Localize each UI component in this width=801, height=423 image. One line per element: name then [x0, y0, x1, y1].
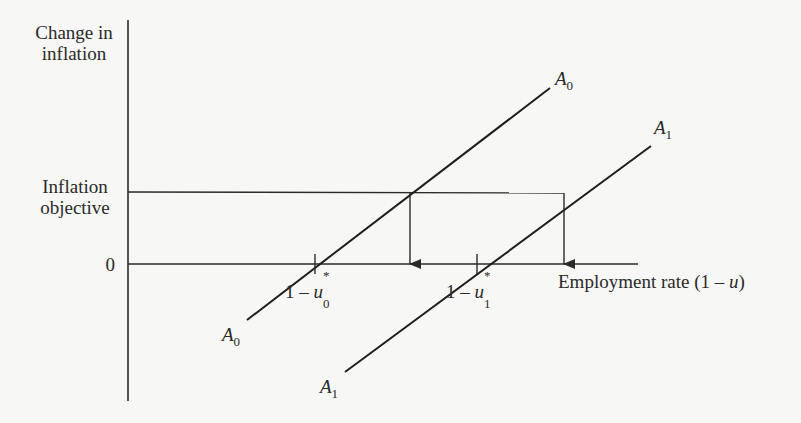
curve-a1-sub: 1: [666, 127, 673, 142]
curve-a0-letter: A: [555, 68, 567, 89]
zero-label: 0: [90, 254, 115, 275]
curve-a1-letter: A: [320, 376, 332, 397]
curve-a0-sub: 0: [567, 78, 574, 93]
curve-a0-letter: A: [222, 324, 234, 345]
x-axis-label-close: ): [738, 271, 744, 292]
curve-a1-letter: A: [654, 117, 666, 138]
y-axis-label-line2: inflation: [24, 43, 124, 64]
objective-label-line2: objective: [30, 197, 120, 218]
y-axis-label: Change in inflation: [24, 22, 124, 64]
curve-a1-sub: 1: [332, 386, 339, 401]
curve-a0-top-label: A0: [555, 68, 573, 89]
inflation-objective-line: [128, 192, 564, 193]
tick-u1-var: u: [475, 281, 485, 302]
x-axis-label-text: Employment rate (1 –: [558, 271, 729, 292]
curve-a0-bottom-label: A0: [222, 324, 240, 345]
y-axis-label-line1: Change in: [24, 22, 124, 43]
objective-label-line1: Inflation: [30, 176, 120, 197]
curve-a1-top-label: A1: [654, 117, 672, 138]
x-axis-label: Employment rate (1 – u): [558, 271, 745, 292]
tick-u0-label: 1 – u*0: [285, 281, 330, 302]
tick-u1-sub: 1: [484, 296, 491, 311]
tick-u0-prefix: 1 –: [285, 281, 314, 302]
curve-a0-sub: 0: [234, 334, 241, 349]
tick-u1-prefix: 1 –: [446, 281, 475, 302]
objective-label: Inflation objective: [30, 176, 120, 218]
curve-a1-bottom-label: A1: [320, 376, 338, 397]
curve-a1: [345, 146, 651, 372]
tick-u0-sub: 0: [323, 296, 330, 311]
tick-u0-var: u: [314, 281, 324, 302]
tick-u1-label: 1 – u*1: [446, 281, 491, 302]
